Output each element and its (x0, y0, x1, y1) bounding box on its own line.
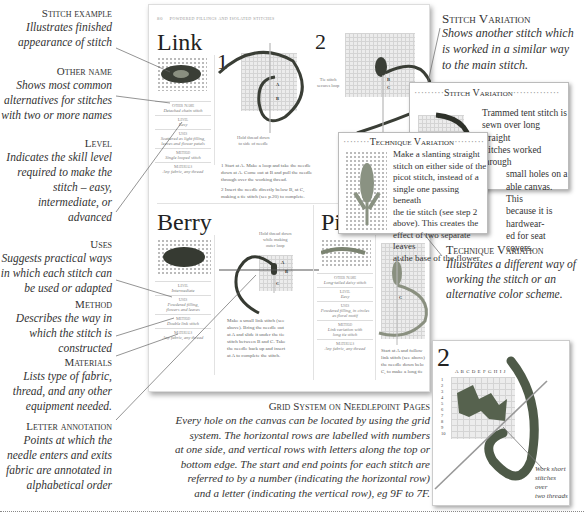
link-tie-note: Tie stitch secures loop (317, 77, 339, 89)
callout-stitch-example: Stitch example Illustrates finished appe… (0, 7, 112, 50)
link-info-column: Other Name Detached chain stitch Level E… (155, 99, 211, 174)
callout-method: Method Describes the way in which the st… (0, 298, 112, 356)
link-step-2-number: 2 (315, 29, 326, 55)
callout-grid-system: Grid System on Needlepoint Pages Every h… (150, 400, 430, 500)
link-step-1-spiral (215, 43, 311, 133)
callout-letter-annotation: Letter annotation Points at which the ne… (0, 420, 112, 493)
callout-level: Level Indicates the skill level required… (0, 137, 112, 225)
technique-variation-box: ········Technique Variation········· Mak… (338, 132, 488, 234)
berry-step-text: Make a small link stitch (see above). Br… (227, 317, 285, 359)
running-head: 80 Powdered Fillings and Isolated Stitch… (157, 16, 275, 21)
callout-other-name: Other name Shows most common alternative… (0, 65, 112, 123)
callout-technique-variation: Technique Variation Illustrates a differ… (446, 244, 584, 302)
picot-info-column: Other Name Long-tailed daisy stitch Leve… (317, 271, 373, 351)
berry-title: Berry (157, 209, 212, 236)
berry-info-column: Level Intermediate Uses Powdered filling… (155, 279, 211, 340)
callout-title: Stitch example (0, 7, 112, 20)
berry-stitch-example (161, 245, 207, 269)
stitch-variation-heading: ·········Stitch Variation·············· (410, 83, 568, 98)
link-stitch-example (159, 61, 205, 87)
link-title: Link (157, 29, 202, 56)
picot-diagram (377, 255, 431, 345)
technique-variation-heading: ········Technique Variation········· (339, 133, 487, 147)
link-step-text: 1 Start at A. Make a loop and take the n… (221, 162, 312, 200)
callout-stitch-variation: Stitch Variation Shows another stitch wh… (442, 12, 584, 73)
callout-uses: Uses Suggests practical ways in which ea… (0, 238, 112, 296)
link-hold-note: Hold thread down to side of needle (237, 135, 270, 147)
picot-step-text: Start at A and follow link stitch (see a… (381, 347, 425, 375)
technique-variation-image (345, 157, 389, 227)
page-bottom-dotted-rule (0, 511, 584, 512)
berry-hold-note: Hold thread down while making outer loop (259, 231, 292, 249)
callout-materials: Materials Lists type of fabric, thread, … (0, 356, 112, 414)
picot-stitch-example (321, 245, 367, 261)
needlepoint-note: Work short stitches over two threads (535, 465, 569, 501)
needlepoint-panel: 2 A B C D E F G H I J 1 2 3 4 5 6 7 8 9 … (432, 340, 570, 506)
berry-diagram (219, 249, 319, 315)
stitch-variation-text: Trammed tent stitch is sewn over long st… (482, 107, 568, 255)
